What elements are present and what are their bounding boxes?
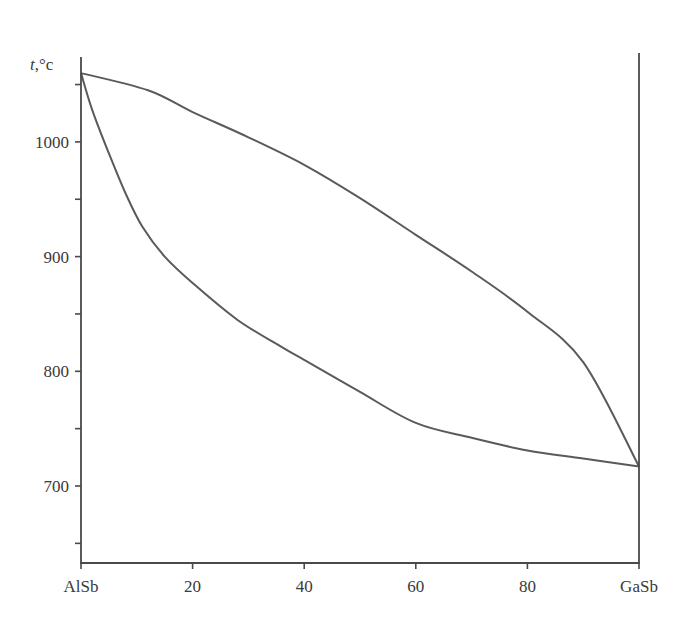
- y-tick-label: 900: [44, 248, 70, 267]
- x-tick-label: AlSb: [64, 577, 99, 596]
- y-ticks: 7008009001000: [35, 85, 81, 544]
- axes: [80, 53, 640, 564]
- x-tick-label: 80: [519, 577, 536, 596]
- x-tick-label: 60: [407, 577, 424, 596]
- phase-diagram-chart: 7008009001000 AlSb20406080GaSb t,°c: [0, 0, 679, 629]
- x-tick-label: 20: [184, 577, 201, 596]
- curves: [81, 73, 639, 466]
- x-tick-label: 40: [296, 577, 313, 596]
- y-axis-title: t,°c: [30, 55, 54, 74]
- solidus-curve: [81, 73, 639, 466]
- liquidus-curve: [81, 73, 639, 466]
- y-tick-label: 700: [44, 477, 70, 496]
- x-ticks: AlSb20406080GaSb: [64, 563, 658, 596]
- y-tick-label: 1000: [35, 133, 69, 152]
- y-tick-label: 800: [44, 362, 70, 381]
- x-tick-label: GaSb: [620, 577, 658, 596]
